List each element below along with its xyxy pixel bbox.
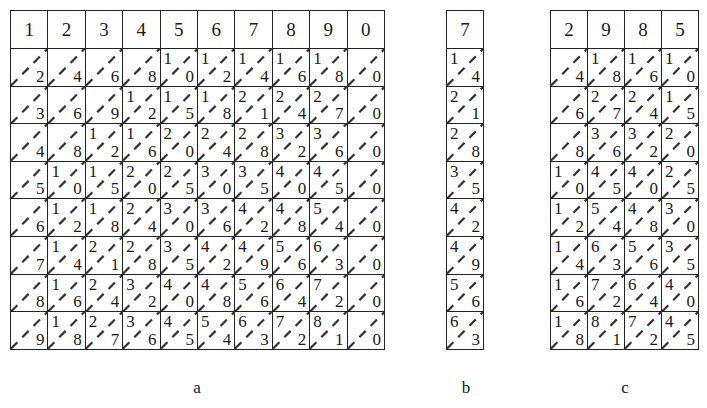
tens-digit: 2	[591, 88, 600, 105]
tens-digit: 6	[313, 238, 322, 255]
units-digit: 0	[373, 256, 382, 273]
product-cell: 6	[11, 199, 48, 237]
units-digit: 6	[650, 256, 659, 273]
product-cell: 4	[551, 49, 588, 87]
product-cell: 10	[160, 49, 197, 87]
tens-digit: 6	[628, 276, 637, 293]
tens-digit: 3	[665, 200, 674, 217]
bone-header-digit: 8	[625, 11, 662, 49]
product-cell: 14	[447, 49, 484, 87]
product-cell: 40	[662, 274, 699, 312]
units-digit: 8	[260, 143, 269, 160]
product-cell: 7	[11, 236, 48, 274]
tens-digit: 4	[665, 313, 674, 330]
product-cell: 0	[347, 199, 384, 237]
units-digit: 6	[148, 331, 157, 348]
product-cell: 56	[272, 236, 309, 274]
tens-digit: 5	[591, 200, 600, 217]
units-digit: 1	[335, 331, 344, 348]
units-digit: 1	[613, 331, 622, 348]
tens-digit: 5	[238, 276, 247, 293]
bone-header-digit: 3	[85, 11, 122, 49]
units-digit: 0	[373, 105, 382, 122]
units-digit: 6	[650, 68, 659, 85]
product-row: 14635635	[551, 236, 699, 274]
units-digit: 6	[576, 105, 585, 122]
product-cell: 0	[347, 312, 384, 350]
product-cell: 28	[123, 236, 160, 274]
product-cell: 63	[235, 312, 272, 350]
tens-digit: 2	[126, 163, 135, 180]
units-digit: 2	[223, 256, 232, 273]
product-cell: 72	[272, 312, 309, 350]
units-digit: 0	[576, 180, 585, 197]
units-digit: 4	[73, 256, 82, 273]
units-digit: 6	[73, 293, 82, 310]
units-digit: 6	[148, 143, 157, 160]
product-cell: 15	[160, 86, 197, 124]
tens-digit: 3	[126, 276, 135, 293]
tens-digit: 4	[164, 313, 173, 330]
units-digit: 5	[687, 331, 696, 348]
units-digit: 2	[298, 331, 307, 348]
units-digit: 2	[650, 331, 659, 348]
units-digit: 2	[260, 218, 269, 235]
tens-digit: 5	[313, 200, 322, 217]
units-digit: 4	[260, 68, 269, 85]
product-row: 42	[447, 199, 484, 237]
tens-digit: 7	[591, 276, 600, 293]
tens-digit: 1	[126, 88, 135, 105]
product-cell: 42	[447, 199, 484, 237]
product-row: 4181610	[551, 49, 699, 87]
units-digit: 8	[650, 218, 659, 235]
tens-digit: 1	[276, 50, 285, 67]
units-digit: 4	[650, 105, 659, 122]
product-row: 6272415	[551, 86, 699, 124]
units-digit: 5	[185, 180, 194, 197]
units-digit: 0	[373, 180, 382, 197]
tens-digit: 4	[201, 276, 210, 293]
product-cell: 10	[551, 161, 588, 199]
bone-header-digit: 0	[347, 11, 384, 49]
product-cell: 16	[551, 274, 588, 312]
product-cell: 28	[235, 124, 272, 162]
units-digit: 2	[472, 218, 481, 235]
units-digit: 0	[687, 68, 696, 85]
units-digit: 4	[298, 293, 307, 310]
product-cell: 8	[48, 124, 85, 162]
product-cell: 6	[551, 86, 588, 124]
units-digit: 4	[613, 218, 622, 235]
tens-digit: 1	[126, 125, 135, 142]
tens-digit: 4	[238, 238, 247, 255]
units-digit: 6	[298, 68, 307, 85]
tens-digit: 3	[126, 313, 135, 330]
product-cell: 12	[85, 124, 122, 162]
product-cell: 16	[272, 49, 309, 87]
units-digit: 4	[576, 68, 585, 85]
units-digit: 2	[73, 218, 82, 235]
product-cell: 32	[625, 124, 662, 162]
product-cell: 35	[160, 236, 197, 274]
tens-digit: 1	[238, 50, 247, 67]
units-digit: 5	[185, 256, 194, 273]
product-cell: 2	[11, 49, 48, 87]
product-cell: 27	[85, 312, 122, 350]
units-digit: 6	[111, 68, 120, 85]
tens-digit: 1	[591, 50, 600, 67]
product-row: 10454025	[551, 161, 699, 199]
tens-digit: 1	[89, 200, 98, 217]
tens-digit: 4	[665, 276, 674, 293]
product-row: 8363220	[551, 124, 699, 162]
product-cell: 10	[662, 49, 699, 87]
product-cell: 54	[197, 312, 234, 350]
tens-digit: 1	[665, 88, 674, 105]
tens-digit: 1	[51, 276, 60, 293]
tens-digit: 4	[591, 163, 600, 180]
units-digit: 1	[472, 105, 481, 122]
tens-digit: 2	[89, 238, 98, 255]
tens-digit: 2	[89, 276, 98, 293]
units-digit: 8	[111, 218, 120, 235]
bone-header-digit: 2	[48, 11, 85, 49]
tens-digit: 3	[591, 125, 600, 142]
product-cell: 15	[85, 161, 122, 199]
